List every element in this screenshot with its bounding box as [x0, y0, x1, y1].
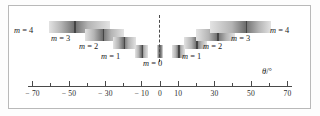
band-peak-line	[103, 29, 104, 41]
tick--70	[32, 81, 33, 86]
tick-label--70: − 70	[18, 89, 48, 98]
band-peak-line	[142, 45, 143, 59]
tick-label--50: − 50	[54, 89, 84, 98]
order-label-m2R: m = 2	[203, 42, 222, 51]
tick--60	[50, 83, 51, 86]
tick--30	[105, 81, 106, 86]
tick-10	[178, 81, 179, 86]
band-peak-line	[124, 37, 125, 49]
tick-20	[196, 83, 197, 86]
tick-50	[251, 81, 252, 86]
tick-label-30: 30	[200, 89, 230, 98]
order-label-m1R: m = 1	[182, 52, 201, 61]
tick-label-50: 50	[236, 89, 266, 98]
order-label-m1L: m = 1	[101, 52, 120, 61]
order-label-m3L: m = 3	[51, 34, 70, 43]
figure-root: − 70− 50− 30− 10010305070 m = 4m = 3m = …	[0, 0, 320, 116]
order-label-m2L: m = 2	[79, 42, 98, 51]
order-label-m4R: m = 4	[270, 26, 289, 35]
tick-30	[214, 81, 215, 86]
tick--20	[123, 83, 124, 86]
tick-label--30: − 30	[90, 89, 120, 98]
order-value: = 4	[20, 26, 33, 35]
spectral-band-m1-left	[135, 45, 148, 59]
zero-order-dashed-line	[159, 15, 160, 62]
order-value: = 3	[57, 34, 70, 43]
order-label-m0: m = 0	[143, 59, 162, 68]
spectral-band-m4-right	[210, 21, 271, 33]
tick--40	[87, 83, 88, 86]
band-gradient	[210, 21, 271, 33]
order-value: = 1	[107, 52, 120, 61]
order-value: = 2	[85, 42, 98, 51]
tick-label-70: 70	[272, 89, 302, 98]
order-label-m4L: m = 4	[14, 26, 33, 35]
tick--50	[69, 81, 70, 86]
tick-40	[232, 83, 233, 86]
theta-units: /°	[266, 66, 272, 76]
order-value: = 4	[276, 26, 289, 35]
order-value: = 2	[209, 42, 222, 51]
band-peak-line	[74, 21, 75, 33]
tick-0	[160, 81, 161, 86]
tick-label-10: 10	[163, 89, 193, 98]
theta-axis-label: θ/°	[262, 66, 272, 76]
order-value: = 0	[149, 59, 162, 68]
tick-70	[287, 81, 288, 86]
band-peak-line	[246, 21, 247, 33]
spectral-band-m2-left	[113, 37, 137, 49]
band-peak-line	[178, 45, 179, 59]
theta-axis-line	[28, 86, 292, 87]
plot-area: − 70− 50− 30− 10010305070 m = 4m = 3m = …	[0, 0, 320, 116]
tick--10	[141, 81, 142, 86]
order-value: = 1	[188, 52, 201, 61]
order-value: = 3	[237, 34, 250, 43]
order-label-m3R: m = 3	[231, 34, 250, 43]
tick-60	[269, 83, 270, 86]
